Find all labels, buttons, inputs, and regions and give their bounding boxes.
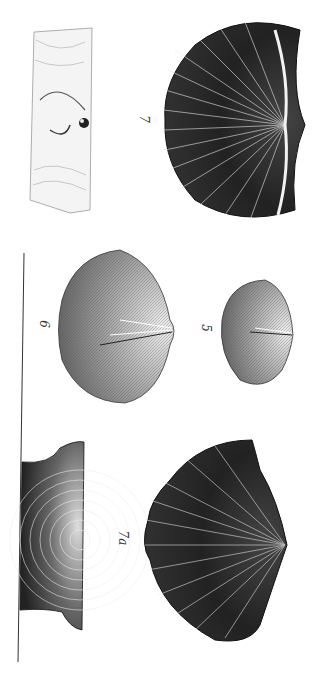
fig-7a-label: 7a xyxy=(117,531,129,546)
fig-7-shell xyxy=(164,22,305,220)
plate-canvas xyxy=(0,0,318,678)
fig-5-shell xyxy=(221,280,293,384)
fig-5-label: 5 xyxy=(200,324,212,332)
fig-7-label: 7 xyxy=(138,115,150,123)
fig-7a-shell xyxy=(144,440,287,641)
fig-6-label: 6 xyxy=(38,320,50,328)
fig-6-shell xyxy=(59,250,175,403)
fig-7-matrix xyxy=(30,28,92,213)
